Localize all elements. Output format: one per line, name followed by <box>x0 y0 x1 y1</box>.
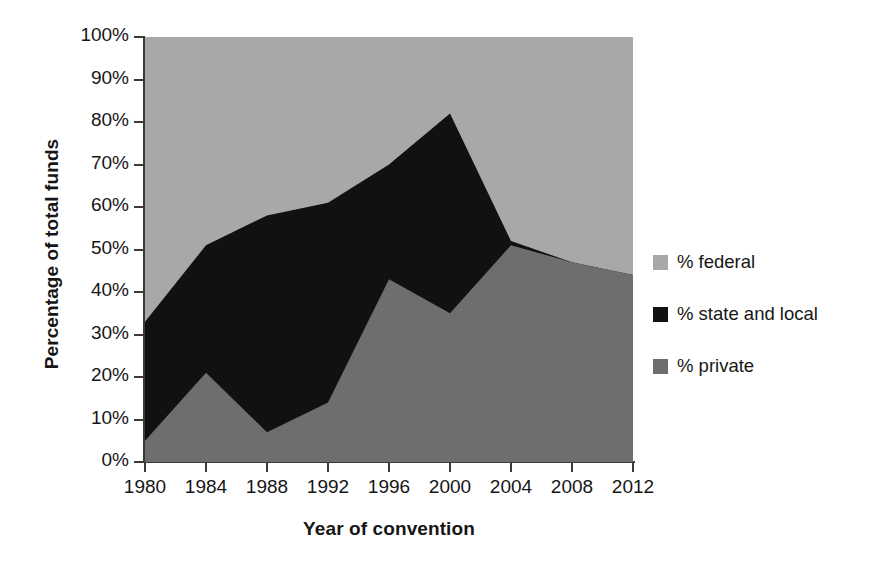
x-tick-label: 2004 <box>476 476 546 498</box>
y-tick-label: 20% <box>9 364 129 386</box>
x-tick-mark <box>388 462 390 472</box>
x-tick-label: 1984 <box>171 476 241 498</box>
y-tick-label: 90% <box>9 67 129 89</box>
legend-label-federal: % federal <box>677 251 755 273</box>
area-chart: Percentage of total funds 0%10%20%30%40%… <box>0 0 879 562</box>
x-tick-label: 1980 <box>110 476 180 498</box>
x-axis-title: Year of convention <box>145 518 633 540</box>
x-tick-mark <box>205 462 207 472</box>
x-tick-mark <box>510 462 512 472</box>
legend-label-state-and-local: % state and local <box>677 303 818 325</box>
plot-area <box>145 37 633 462</box>
x-tick-label: 2000 <box>415 476 485 498</box>
x-tick-mark <box>327 462 329 472</box>
legend-swatch-federal-icon <box>653 255 668 270</box>
legend-item-federal: % federal <box>653 236 818 288</box>
x-tick-label: 2008 <box>537 476 607 498</box>
x-tick-mark <box>449 462 451 472</box>
legend-item-state-and-local: % state and local <box>653 288 818 340</box>
legend-swatch-state-and-local-icon <box>653 307 668 322</box>
y-tick-label: 60% <box>9 194 129 216</box>
y-tick-label: 70% <box>9 152 129 174</box>
stacked-area-svg <box>145 37 633 462</box>
y-tick-label: 40% <box>9 279 129 301</box>
x-tick-mark <box>266 462 268 472</box>
y-tick-label: 80% <box>9 109 129 131</box>
y-tick-label: 30% <box>9 322 129 344</box>
legend-swatch-private-icon <box>653 359 668 374</box>
legend-item-private: % private <box>653 340 818 392</box>
x-tick-mark <box>144 462 146 472</box>
y-tick-label: 50% <box>9 237 129 259</box>
chart-legend: % federal % state and local % private <box>653 236 818 392</box>
x-tick-label: 2012 <box>598 476 668 498</box>
x-tick-mark <box>632 462 634 472</box>
x-tick-label: 1992 <box>293 476 363 498</box>
x-tick-label: 1996 <box>354 476 424 498</box>
y-tick-label: 0% <box>9 449 129 471</box>
y-tick-label: 10% <box>9 407 129 429</box>
x-tick-mark <box>571 462 573 472</box>
x-tick-label: 1988 <box>232 476 302 498</box>
legend-label-private: % private <box>677 355 754 377</box>
y-tick-label: 100% <box>9 24 129 46</box>
